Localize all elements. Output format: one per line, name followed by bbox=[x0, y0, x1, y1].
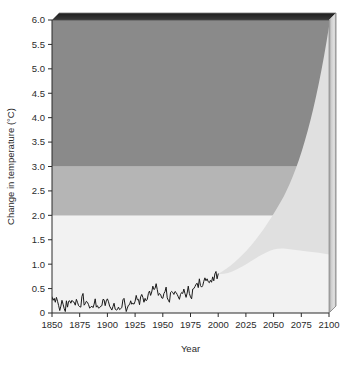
y-tick-label: 2.5 bbox=[32, 185, 45, 196]
y-tick-label: 3.5 bbox=[32, 136, 45, 147]
x-tick-label: 1975 bbox=[180, 319, 201, 330]
y-tick-label: 5.0 bbox=[32, 63, 45, 74]
x-axis-title: Year bbox=[181, 343, 200, 354]
x-tick-label: 1925 bbox=[125, 319, 146, 330]
y-tick-label: 4.5 bbox=[32, 88, 45, 99]
y-tick-label: 6.0 bbox=[32, 14, 45, 25]
y-tick-label: 2.0 bbox=[32, 210, 45, 221]
chart-canvas: 00.51.01.52.02.53.03.54.04.55.05.56.0 18… bbox=[0, 0, 343, 371]
x-tick-label: 2075 bbox=[291, 319, 312, 330]
y-tick-label: 3.0 bbox=[32, 161, 45, 172]
y-tick-label: 4.0 bbox=[32, 112, 45, 123]
y-tick-label: 1.0 bbox=[32, 259, 45, 270]
y-tick-label: 5.5 bbox=[32, 39, 45, 50]
y-axis-ticks: 00.51.01.52.02.53.03.54.04.55.05.56.0 bbox=[32, 14, 52, 318]
right-side-face bbox=[329, 13, 336, 313]
y-tick-label: 1.5 bbox=[32, 234, 45, 245]
x-axis-ticks: 1850187519001925195019752000202520502075… bbox=[41, 313, 339, 330]
climate-projection-chart: 00.51.01.52.02.53.03.54.04.55.05.56.0 18… bbox=[0, 0, 343, 371]
y-tick-label: 0 bbox=[40, 307, 45, 318]
x-tick-label: 2025 bbox=[235, 319, 256, 330]
y-tick-label: 0.5 bbox=[32, 283, 45, 294]
risk-bands-group bbox=[52, 20, 329, 313]
x-tick-label: 1900 bbox=[97, 319, 118, 330]
top-bevel-face bbox=[52, 13, 336, 20]
high-risk-band bbox=[52, 20, 329, 167]
x-tick-label: 1850 bbox=[41, 319, 62, 330]
x-tick-label: 2050 bbox=[263, 319, 284, 330]
x-tick-label: 1875 bbox=[69, 319, 90, 330]
x-tick-label: 2000 bbox=[208, 319, 229, 330]
y-axis-title: Change in temperature (°C) bbox=[5, 108, 16, 225]
x-tick-label: 1950 bbox=[152, 319, 173, 330]
x-tick-label: 2100 bbox=[318, 319, 339, 330]
